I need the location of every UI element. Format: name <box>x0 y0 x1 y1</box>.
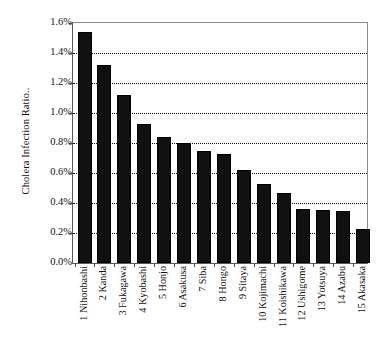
bar <box>356 229 370 264</box>
bar <box>137 124 151 264</box>
x-axis-label-slot: 11 Koishikawa <box>276 266 290 351</box>
x-axis-label-slot: 4 Kyobashi <box>136 266 150 351</box>
x-axis-tick-label: 14 Azabu <box>337 266 347 305</box>
bar-series <box>73 23 367 263</box>
y-axis-tick-label: 1.4% <box>26 47 72 57</box>
x-axis-tick-label: 11 Koishikawa <box>278 266 288 327</box>
y-axis-tick-label: 1.0% <box>26 107 72 117</box>
x-axis-label-slot: 8 Hongo <box>216 266 230 351</box>
x-axis-label-slot: 6 Asakusa <box>176 266 190 351</box>
bar <box>157 137 171 263</box>
bar <box>78 32 92 263</box>
x-axis-tick-label: 1 Nihonbashi <box>79 266 89 321</box>
bar <box>197 151 211 263</box>
x-axis-label-slot: 5 Honjo <box>156 266 170 351</box>
x-axis-label-slot: 1 Nihonbashi <box>77 266 91 351</box>
bar <box>97 65 111 263</box>
x-axis-tick-label: 13 Yotsuya <box>317 266 327 311</box>
bar <box>237 170 251 263</box>
plot-area <box>72 22 368 264</box>
y-axis-tick-label: 0.8% <box>26 137 72 147</box>
y-axis-tick-label: 0.0% <box>26 257 72 267</box>
x-axis-tick-label: 10 Kojimachi <box>258 266 268 322</box>
x-axis-tick-label: 8 Hongo <box>218 266 228 301</box>
x-axis-label-slot: 3 Fukagawa <box>116 266 130 351</box>
y-axis-tick-label: 0.6% <box>26 167 72 177</box>
chart-figure: Cholera Infection Ratio.. 1.6%1.4%1.2%1.… <box>0 0 383 351</box>
bar <box>117 95 131 263</box>
x-axis-label-slot: 2 Kanda <box>96 266 110 351</box>
x-axis-tick-label: 7 Siba <box>198 266 208 292</box>
x-axis-tick-label: 6 Asakusa <box>178 266 188 308</box>
x-axis-tick-labels: 1 Nihonbashi2 Kanda3 Fukagawa4 Kyobashi5… <box>72 266 366 351</box>
x-axis-tick-label: 2 Kanda <box>98 266 108 300</box>
x-axis-tick-label: 4 Kyobashi <box>138 266 148 313</box>
x-axis-tick-label: 15 Akasaka <box>357 266 367 313</box>
x-axis-label-slot: 14 Azabu <box>335 266 349 351</box>
bar <box>177 143 191 263</box>
x-axis-label-slot: 9 Sitaya <box>236 266 250 351</box>
bar <box>336 211 350 264</box>
bar <box>277 193 291 264</box>
y-axis-tick-label: 0.2% <box>26 227 72 237</box>
x-axis-tick-label: 12 Ushigome <box>297 266 307 321</box>
y-axis-tick-label: 1.6% <box>26 17 72 27</box>
bar <box>296 209 310 263</box>
bar <box>257 184 271 263</box>
y-axis-tick-label: 1.2% <box>26 77 72 87</box>
x-axis-label-slot: 15 Akasaka <box>355 266 369 351</box>
bar <box>316 210 330 263</box>
x-axis-tick-label: 9 Sitaya <box>238 266 248 299</box>
y-axis-tick-label: 0.4% <box>26 197 72 207</box>
bar <box>217 154 231 264</box>
x-axis-tick-label: 3 Fukagawa <box>118 266 128 316</box>
x-axis-label-slot: 10 Kojimachi <box>256 266 270 351</box>
x-axis-label-slot: 13 Yotsuya <box>315 266 329 351</box>
x-axis-label-slot: 7 Siba <box>196 266 210 351</box>
x-axis-tick-label: 5 Honjo <box>158 266 168 299</box>
x-axis-label-slot: 12 Ushigome <box>295 266 309 351</box>
